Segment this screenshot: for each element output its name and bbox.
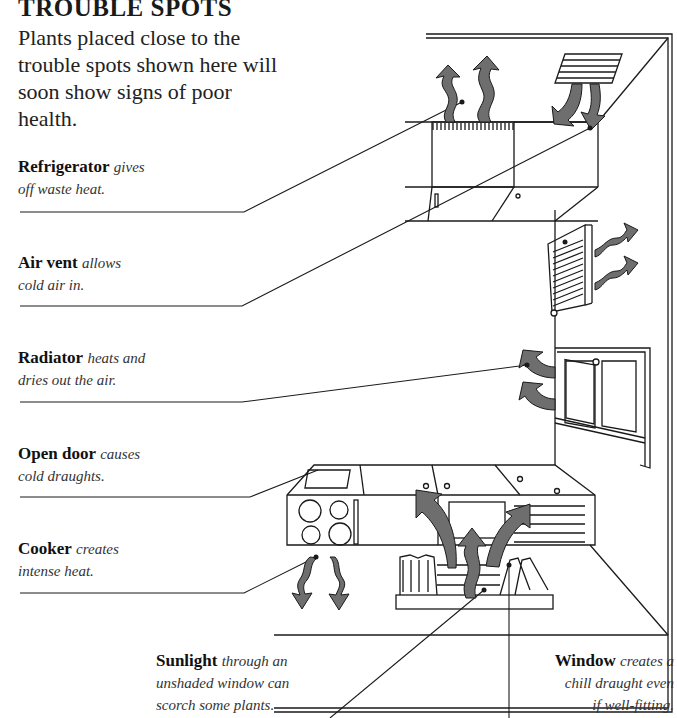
wall-cabinet [405, 122, 598, 221]
callout-description: scorch some plants. [156, 697, 274, 713]
room-frame [274, 34, 672, 712]
callout-radiator: Radiator heats and dries out the air. [18, 347, 238, 391]
callout-cooker: Cooker creates intense heat. [18, 538, 238, 582]
callout-term: Air vent [18, 253, 78, 272]
callout-term: Refrigerator [18, 157, 110, 176]
callout-description: causes [100, 446, 140, 462]
callout-term: Open door [18, 444, 96, 463]
callout-description: dries out the air. [18, 372, 116, 388]
callout-description: off waste heat. [18, 181, 105, 197]
callout-description: allows [82, 255, 121, 271]
callout-sunlight: Sunlight through an unshaded window can … [156, 650, 356, 716]
callout-description: chill draught even [565, 675, 674, 691]
page-title: TROUBLE SPOTS [18, 0, 232, 22]
callout-term: Radiator [18, 348, 83, 367]
callout-description: creates [76, 541, 119, 557]
callout-description: if well-fitting. [592, 697, 674, 713]
callout-window: Window creates a chill draught even if w… [470, 650, 674, 716]
callout-term: Cooker [18, 539, 72, 558]
callout-air-vent: Air vent allows cold air in. [18, 252, 238, 296]
leader-dots [314, 100, 593, 593]
window-frame [555, 348, 650, 468]
ceiling-vent [555, 54, 622, 83]
callout-description: gives [114, 159, 145, 175]
callout-description: cold draughts. [18, 468, 105, 484]
airflow-arrows [292, 56, 638, 610]
callout-refrigerator: Refrigerator gives off waste heat. [18, 156, 238, 200]
callout-description: heats and [87, 350, 145, 366]
callout-description: intense heat. [18, 563, 94, 579]
callout-description: cold air in. [18, 277, 84, 293]
callout-description: creates a [620, 653, 674, 669]
intro-text: Plants placed close to the trouble spots… [18, 24, 288, 132]
callout-open-door: Open door causes cold draughts. [18, 443, 238, 487]
callout-description: unshaded window can [156, 675, 289, 691]
callout-term: Window [555, 651, 616, 670]
callout-term: Sunlight [156, 651, 217, 670]
callout-description: through an [222, 653, 288, 669]
